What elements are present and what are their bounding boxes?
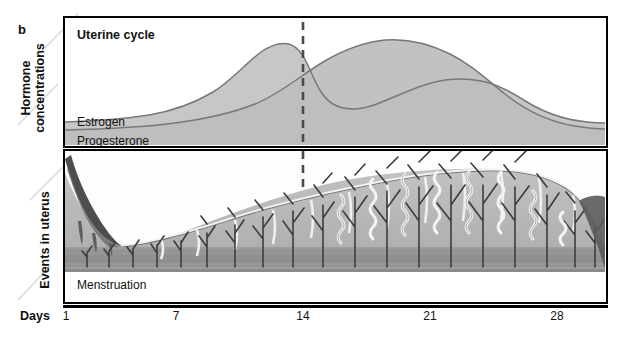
- days-axis-title: Days: [20, 309, 50, 323]
- menstruation-label: Menstruation: [77, 278, 146, 292]
- uterine-cycle-figure: b Hormone concentrations Events in uteru…: [0, 0, 624, 344]
- y-axis-label-events: Events in uterus: [38, 180, 52, 300]
- y-axis-label-hormone: Hormone concentrations: [19, 28, 47, 148]
- day-tick-21: 21: [423, 309, 436, 323]
- estrogen-label: Estrogen: [77, 115, 125, 129]
- day-tick-14: 14: [296, 309, 309, 323]
- myometrium-base: [65, 269, 605, 272]
- events-in-uterus-panel: Menstruation: [63, 149, 608, 304]
- progesterone-label: Progesterone: [77, 134, 149, 148]
- y-axis-hormone-line2: concentrations: [33, 43, 47, 133]
- day-tick-28: 28: [550, 309, 563, 323]
- day-axis-line: [63, 305, 608, 308]
- hormone-panel-title: Uterine cycle: [77, 28, 155, 42]
- day-tick-7: 7: [173, 309, 180, 323]
- hormone-concentrations-panel: Uterine cycle Estrogen Progesterone: [63, 16, 608, 148]
- y-axis-hormone-line1: Hormone: [19, 61, 33, 116]
- day-tick-1: 1: [63, 309, 70, 323]
